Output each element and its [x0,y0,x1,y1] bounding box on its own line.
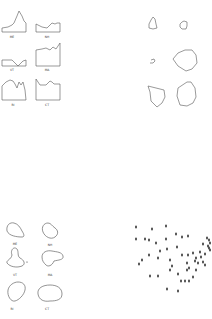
scatter-marker [186,269,188,272]
scatter-marker [157,275,159,278]
blob-outlines-panel: ME NH VT MA RI CT [0,210,80,319]
blob-label-ct: CT [45,307,49,311]
scatter-marker [175,233,177,236]
profile-plots-panel: ME NH VT MA RI CT [0,0,106,110]
scatter-marker [169,259,171,262]
scatter-marker [144,238,146,241]
scatter-marker [204,264,206,267]
scatter-marker [159,250,161,253]
profile-ma [36,43,60,66]
scatter-marker [181,254,183,257]
scatter-marker [208,239,210,242]
scatter-marker [148,254,150,257]
scatter-marker [151,228,153,231]
scatter-marker [184,280,186,283]
blob-vt [7,248,24,267]
profile-me [2,11,26,32]
scatter-marker [157,257,159,260]
polygon-2 [180,21,187,29]
scatter-marker [194,260,196,263]
label-vt: VT [10,68,14,72]
polygon-1 [149,17,157,29]
profile-ct [36,79,60,100]
scatter-marker [202,261,204,264]
scatter-marker [177,290,179,293]
scatter-marker [165,225,167,228]
blob-nh [42,223,57,238]
blob-label-ri: RI [11,307,14,311]
label-ri: RI [12,103,15,107]
scatter-marker [176,246,178,249]
scatter-marker [138,263,140,266]
blob-label-vt: VT [13,273,17,277]
profile-plots-svg: ME NH VT MA RI CT [0,0,106,110]
scatter-marker [187,235,189,238]
label-nh: NH [45,35,50,39]
profile-ri [2,80,26,100]
blob-outlines-svg: ME NH VT MA RI CT [0,210,80,319]
scatter-marker [180,280,182,283]
scatter-marker [166,288,168,291]
scatter-marker [181,236,183,239]
polygon-4 [173,50,197,71]
polygon-outlines-svg [120,0,212,110]
scatter-marker [177,273,179,276]
scatter-marker [135,238,137,241]
scatter-marker [202,243,204,246]
scatter-marker [141,259,143,262]
blob-label-me: ME [13,242,18,246]
label-ma: MA [45,68,51,72]
scatter-marker [200,256,202,259]
blob-vt-dot [26,261,27,262]
polygon-3 [150,59,155,63]
profile-nh [36,23,60,32]
scatter-panel [125,210,212,295]
scatter-marker [155,242,157,245]
polygon-6 [177,82,196,106]
scatter-marker [166,248,168,251]
polygon-5 [148,86,165,107]
scatter-marker [195,257,197,260]
profile-vt [2,60,26,66]
scatter-marker [192,276,194,279]
blob-ri [8,282,25,301]
label-me: ME [10,35,15,39]
scatter-marker [192,252,194,255]
scatter-marker [209,242,211,245]
scatter-marker [188,280,190,283]
scatter-marker [204,253,206,256]
label-ct: CT [45,103,49,107]
scatter-marker [199,251,201,254]
scatter-marker [206,237,208,240]
scatter-marker [165,238,167,241]
blob-ct [38,285,62,301]
blob-me [7,223,24,237]
scatter-marker [197,262,199,265]
blob-label-nh: NH [48,243,53,247]
scatter-marker [149,275,151,278]
scatter-svg [125,210,212,295]
scatter-marker [209,249,211,252]
scatter-marker [169,269,171,272]
scatter-marker [148,239,150,242]
scatter-marker [187,254,189,257]
scatter-marker [135,226,137,229]
scatter-marker [195,269,197,272]
blob-label-ma: MA [48,273,54,277]
scatter-marker [186,262,188,265]
scatter-marker [171,265,173,268]
blob-ma [42,251,63,266]
polygon-outlines-panel [120,0,212,110]
scatter-marker [188,267,190,270]
